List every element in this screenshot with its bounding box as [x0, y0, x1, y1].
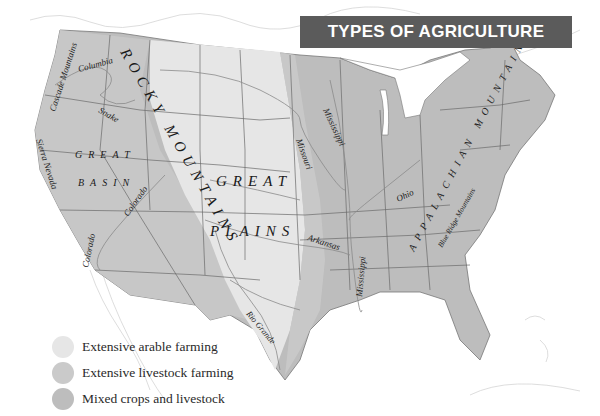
- map-title: TYPES OF AGRICULTURE: [328, 22, 545, 42]
- svg-text:GREAT: GREAT: [216, 173, 292, 189]
- legend: Extensive arable farming Extensive lives…: [52, 334, 233, 412]
- svg-text:PLAINS: PLAINS: [209, 223, 295, 239]
- legend-item-mixed-crops: Mixed crops and livestock: [52, 386, 233, 412]
- swatch-extensive-livestock-icon: [52, 362, 74, 384]
- legend-label: Mixed crops and livestock: [82, 391, 225, 407]
- svg-text:BASIN: BASIN: [78, 177, 135, 188]
- legend-item-extensive-livestock: Extensive livestock farming: [52, 360, 233, 386]
- swatch-extensive-arable-icon: [52, 336, 74, 358]
- legend-label: Extensive livestock farming: [82, 365, 233, 381]
- map-title-banner: TYPES OF AGRICULTURE: [300, 16, 572, 48]
- swatch-mixed-crops-icon: [52, 388, 74, 410]
- legend-item-extensive-arable: Extensive arable farming: [52, 334, 233, 360]
- svg-text:GREAT: GREAT: [75, 149, 136, 160]
- legend-label: Extensive arable farming: [82, 339, 218, 355]
